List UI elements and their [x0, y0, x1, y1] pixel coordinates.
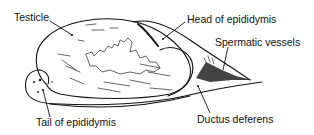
label-ductus-deferens: Ductus deferens — [197, 114, 273, 125]
ductus-deferens-leader-dot — [197, 85, 199, 87]
testicle-leader-line — [50, 21, 72, 35]
testicle-texture-lines — [58, 24, 172, 92]
testicle-shape — [36, 19, 190, 99]
spermatic-vessels-leader-line — [223, 47, 228, 70]
testicle-anatomy-diagram: Testicle Head of epididymis Spermatic ve… — [0, 0, 314, 135]
testicle-lobule-outline — [86, 38, 160, 74]
head-epididymis-shadow — [138, 24, 158, 46]
head-inner-curve — [160, 48, 193, 96]
epididymis-lower-line — [50, 96, 190, 107]
head-epididymis-leader-dot — [162, 38, 164, 40]
label-spermatic-vessels: Spermatic vessels — [215, 37, 300, 48]
label-testicle: Testicle — [14, 12, 49, 23]
head-epididymis-leader-line — [163, 22, 185, 39]
tail-dot — [33, 81, 35, 83]
label-head-of-epididymis: Head of epididymis — [187, 14, 276, 25]
tail-dot — [51, 81, 53, 83]
tail-dot — [39, 79, 41, 81]
ductus-deferens-leader-line — [198, 86, 210, 113]
tail-dot — [37, 91, 39, 93]
label-tail-of-epididymis: Tail of epididymis — [36, 117, 116, 128]
